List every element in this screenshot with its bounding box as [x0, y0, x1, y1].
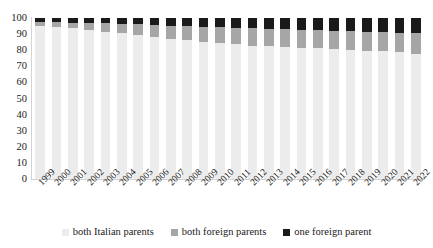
bar-segment-one-foreign-parent[interactable]: [395, 18, 405, 33]
bar-segment-both-foreign-parents[interactable]: [199, 27, 209, 42]
bar-group[interactable]: [52, 18, 62, 179]
bar-segment-both-italian-parents[interactable]: [133, 35, 143, 179]
bar-segment-both-foreign-parents[interactable]: [395, 33, 405, 52]
bar-segment-both-foreign-parents[interactable]: [248, 28, 258, 45]
bar-segment-both-italian-parents[interactable]: [117, 33, 127, 179]
y-tick-label: 80: [17, 45, 28, 56]
bar-segment-both-italian-parents[interactable]: [329, 49, 339, 179]
bar-segment-both-italian-parents[interactable]: [264, 46, 274, 179]
bar-segment-both-italian-parents[interactable]: [199, 42, 209, 179]
bar-segment-one-foreign-parent[interactable]: [199, 18, 209, 27]
bar-segment-one-foreign-parent[interactable]: [280, 18, 290, 29]
bar-segment-both-foreign-parents[interactable]: [329, 31, 339, 49]
bar-segment-one-foreign-parent[interactable]: [248, 18, 258, 28]
bar-group[interactable]: [35, 18, 45, 179]
bar-stack: [199, 18, 209, 179]
bar-segment-both-foreign-parents[interactable]: [346, 31, 356, 49]
bar-segment-both-italian-parents[interactable]: [395, 52, 405, 179]
bar-group[interactable]: [313, 18, 323, 179]
bar-segment-both-italian-parents[interactable]: [231, 44, 241, 179]
bar-segment-both-foreign-parents[interactable]: [411, 33, 421, 53]
bar-segment-both-italian-parents[interactable]: [248, 46, 258, 179]
bar-group[interactable]: [264, 18, 274, 179]
bar-segment-both-foreign-parents[interactable]: [215, 27, 225, 43]
bar-segment-both-italian-parents[interactable]: [378, 51, 388, 179]
bar-group[interactable]: [362, 18, 372, 179]
bar-segment-both-foreign-parents[interactable]: [231, 28, 241, 45]
bar-segment-one-foreign-parent[interactable]: [264, 18, 274, 29]
bar-segment-one-foreign-parent[interactable]: [362, 18, 372, 32]
bar-group[interactable]: [346, 18, 356, 179]
bar-segment-one-foreign-parent[interactable]: [231, 18, 241, 28]
bar-group[interactable]: [68, 18, 78, 179]
legend-item[interactable]: both Italian parents: [62, 227, 154, 238]
bar-group[interactable]: [378, 18, 388, 179]
bar-group[interactable]: [150, 18, 160, 179]
bar-segment-both-foreign-parents[interactable]: [297, 30, 307, 48]
bar-segment-both-foreign-parents[interactable]: [313, 30, 323, 48]
bar-segment-both-italian-parents[interactable]: [150, 37, 160, 179]
bar-group[interactable]: [231, 18, 241, 179]
bar-group[interactable]: [280, 18, 290, 179]
bar-segment-both-foreign-parents[interactable]: [378, 32, 388, 51]
bar-segment-both-foreign-parents[interactable]: [362, 32, 372, 51]
bar-group[interactable]: [329, 18, 339, 179]
bar-segment-both-italian-parents[interactable]: [362, 51, 372, 179]
bar-segment-one-foreign-parent[interactable]: [215, 18, 225, 27]
bar-group[interactable]: [248, 18, 258, 179]
bar-group[interactable]: [215, 18, 225, 179]
bar-group[interactable]: [411, 18, 421, 179]
bar-segment-both-italian-parents[interactable]: [297, 48, 307, 179]
bar-group[interactable]: [101, 18, 111, 179]
bar-segment-both-foreign-parents[interactable]: [133, 24, 143, 34]
bar-stack: [395, 18, 405, 179]
bar-segment-both-foreign-parents[interactable]: [264, 29, 274, 46]
bar-group[interactable]: [117, 18, 127, 179]
bar-segment-one-foreign-parent[interactable]: [411, 18, 421, 33]
bar-segment-both-foreign-parents[interactable]: [101, 23, 111, 31]
legend-item[interactable]: both foreign parents: [171, 227, 267, 238]
legend-label: one foreign parent: [294, 227, 371, 238]
bar-group[interactable]: [182, 18, 192, 179]
bar-segment-one-foreign-parent[interactable]: [150, 18, 160, 25]
y-tick-label: 10: [17, 158, 28, 169]
bar-segment-both-foreign-parents[interactable]: [84, 23, 94, 30]
bar-segment-both-foreign-parents[interactable]: [117, 24, 127, 33]
bar-segment-both-italian-parents[interactable]: [215, 43, 225, 179]
bar-group[interactable]: [297, 18, 307, 179]
bar-group[interactable]: [84, 18, 94, 179]
y-tick-label: 60: [17, 77, 28, 88]
bar-segment-one-foreign-parent[interactable]: [329, 18, 339, 31]
bar-stack: [150, 18, 160, 179]
bar-group[interactable]: [199, 18, 209, 179]
bar-segment-both-foreign-parents[interactable]: [150, 25, 160, 37]
bar-segment-both-italian-parents[interactable]: [84, 30, 94, 179]
bar-segment-both-foreign-parents[interactable]: [182, 26, 192, 40]
bar-segment-both-italian-parents[interactable]: [166, 39, 176, 179]
bar-segment-one-foreign-parent[interactable]: [166, 18, 176, 26]
legend-item[interactable]: one foreign parent: [283, 227, 371, 238]
bar-segment-both-italian-parents[interactable]: [68, 28, 78, 179]
bar-segment-both-italian-parents[interactable]: [35, 26, 45, 179]
bar-segment-both-italian-parents[interactable]: [52, 27, 62, 179]
bar-segment-one-foreign-parent[interactable]: [313, 18, 323, 30]
bar-segment-both-italian-parents[interactable]: [346, 50, 356, 179]
bar-segment-both-italian-parents[interactable]: [411, 54, 421, 179]
legend-swatch-icon: [171, 229, 178, 236]
bar-segment-one-foreign-parent[interactable]: [346, 18, 356, 31]
bar-group[interactable]: [395, 18, 405, 179]
bar-segment-both-italian-parents[interactable]: [182, 40, 192, 179]
bar-segment-both-italian-parents[interactable]: [101, 32, 111, 179]
bar-segment-one-foreign-parent[interactable]: [182, 18, 192, 26]
bar-stack: [346, 18, 356, 179]
bar-segment-both-italian-parents[interactable]: [280, 47, 290, 179]
bar-group[interactable]: [166, 18, 176, 179]
bar-segment-both-italian-parents[interactable]: [313, 48, 323, 179]
bar-segment-both-foreign-parents[interactable]: [166, 26, 176, 39]
plot-area: [32, 18, 424, 179]
bar-segment-both-foreign-parents[interactable]: [280, 29, 290, 47]
bar-group[interactable]: [133, 18, 143, 179]
y-tick-label: 20: [17, 142, 28, 153]
bar-segment-one-foreign-parent[interactable]: [378, 18, 388, 32]
bar-segment-one-foreign-parent[interactable]: [297, 18, 307, 30]
